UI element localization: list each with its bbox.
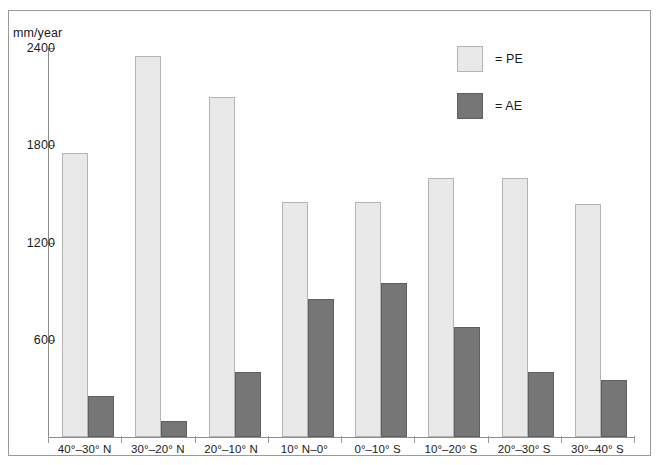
y-tick-label: 1200 — [11, 236, 55, 250]
bar-pe — [135, 56, 161, 437]
x-axis-group-separator — [121, 436, 122, 443]
plot-area: mm/year 600120018002400 40°–30° N30°–20°… — [0, 0, 659, 465]
bar-pe — [62, 153, 88, 437]
bar-ae — [161, 421, 187, 437]
legend-swatch-pe-icon — [457, 46, 483, 72]
bar-pe — [209, 97, 235, 437]
x-axis-group-separator — [341, 436, 342, 443]
y-tick-label: 2400 — [11, 41, 55, 55]
bar-pe — [502, 178, 528, 437]
x-axis-category-label: 10°–20° S — [414, 443, 487, 455]
x-axis-category-label: 0°–10° S — [341, 443, 414, 455]
x-axis-group-separator — [561, 436, 562, 443]
x-axis-category-label: 20°–30° S — [488, 443, 561, 455]
x-axis-category-label: 30°–20° N — [121, 443, 194, 455]
bar-ae — [88, 396, 114, 437]
chart-legend: = PE= AE — [457, 46, 607, 121]
bar-ae — [454, 327, 480, 437]
bar-pe — [575, 204, 601, 437]
legend-item-ae: = AE — [457, 93, 522, 119]
x-axis-category-label: 40°–30° N — [48, 443, 121, 455]
bar-pe — [428, 178, 454, 437]
x-axis-category-label: 30°–40° S — [561, 443, 634, 455]
x-axis-group-separator — [634, 436, 635, 443]
bar-ae — [235, 372, 261, 437]
legend-label: = AE — [495, 99, 522, 113]
x-axis-category-label: 20°–10° N — [195, 443, 268, 455]
y-tick-label: 1800 — [11, 138, 55, 152]
legend-item-pe: = PE — [457, 46, 523, 72]
bar-ae — [308, 299, 334, 437]
x-axis-group-separator — [268, 436, 269, 443]
x-axis-group-separator — [48, 436, 49, 443]
x-axis-category-label: 10° N–0° — [268, 443, 341, 455]
y-axis-unit-label: mm/year — [13, 26, 62, 40]
x-axis-group-separator — [414, 436, 415, 443]
bar-ae — [601, 380, 627, 437]
legend-swatch-ae-icon — [457, 93, 483, 119]
legend-label: = PE — [495, 52, 523, 66]
bar-ae — [381, 283, 407, 437]
chart-figure: mm/year 600120018002400 40°–30° N30°–20°… — [0, 0, 659, 465]
bar-ae — [528, 372, 554, 437]
bar-pe — [355, 202, 381, 437]
x-axis-group-separator — [488, 436, 489, 443]
y-tick-label: 600 — [11, 333, 55, 347]
x-axis-group-separator — [195, 436, 196, 443]
bar-pe — [282, 202, 308, 437]
